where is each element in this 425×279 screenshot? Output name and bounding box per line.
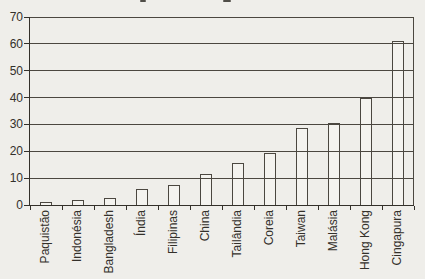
x-axis-category-label: Indonésia (71, 210, 84, 262)
x-axis-category-label: Coreia (263, 210, 276, 245)
plot-right-border (413, 17, 414, 206)
x-axis-tick (414, 206, 415, 210)
y-axis-tick-label: 20 (0, 144, 23, 158)
plot-area: 010203040506070PaquistãoIndonésiaBanglad… (0, 0, 425, 279)
y-axis-tick-label: 40 (0, 91, 23, 105)
x-axis-category-label: Taiwan (295, 210, 308, 247)
x-axis-category-label: Malásia (327, 210, 340, 251)
x-axis-tick (190, 206, 191, 210)
x-axis-tick (222, 206, 223, 210)
y-axis-tick-label: 70 (0, 10, 23, 24)
y-axis-tick-label: 50 (0, 64, 23, 78)
bar-china (200, 174, 212, 205)
bar--ndia (136, 189, 148, 205)
bar-taiwan (296, 128, 308, 205)
bar-tail-ndia (232, 163, 244, 205)
x-axis-category-label: Cingapura (391, 210, 404, 265)
x-axis-category-label: Índia (135, 210, 148, 236)
x-axis-category-label: Hong Kong (359, 210, 372, 270)
gridline (30, 97, 414, 98)
gridline (30, 17, 414, 18)
y-axis-line (29, 17, 31, 206)
y-axis-tick-label: 10 (0, 171, 23, 185)
x-axis-tick (286, 206, 287, 210)
gridline (30, 124, 414, 125)
gridline (30, 151, 414, 152)
x-axis-tick (158, 206, 159, 210)
x-axis-tick (382, 206, 383, 210)
x-axis-tick (254, 206, 255, 210)
x-axis-tick (94, 206, 95, 210)
x-axis-category-label: Bangladesh (103, 210, 116, 273)
x-axis-category-label: Tailândia (231, 210, 244, 257)
x-axis-tick (318, 206, 319, 210)
x-axis-category-label: China (199, 210, 212, 241)
gridline (30, 70, 414, 71)
x-axis-tick (30, 206, 31, 210)
y-axis-tick-label: 0 (0, 198, 23, 212)
gridline (30, 43, 414, 44)
y-axis-tick-label: 60 (0, 37, 23, 51)
gridline (30, 178, 414, 179)
x-axis-category-label: Filipinas (167, 210, 180, 254)
x-axis-tick (62, 206, 63, 210)
y-axis-tick-label: 30 (0, 117, 23, 131)
bar-coreia (264, 153, 276, 205)
scanned-bar-chart-figure: 010203040506070PaquistãoIndonésiaBanglad… (0, 0, 425, 279)
x-axis-tick (126, 206, 127, 210)
x-axis-tick (350, 206, 351, 210)
x-axis-category-label: Paquistão (39, 210, 52, 263)
bar-mal-sia (328, 123, 340, 205)
bar-filipinas (168, 185, 180, 205)
